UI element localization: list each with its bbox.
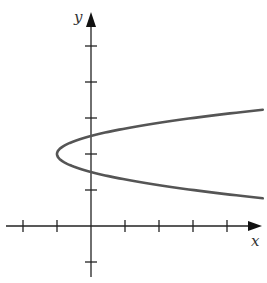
- axes: [6, 12, 262, 277]
- axis-ticks: [23, 46, 227, 262]
- x-axis-label: x: [251, 232, 260, 250]
- y-axis-arrow-icon: [86, 12, 96, 27]
- y-axis-label: y: [73, 8, 83, 26]
- x-axis-arrow-icon: [248, 221, 262, 231]
- parabola-plot: x y: [0, 0, 267, 283]
